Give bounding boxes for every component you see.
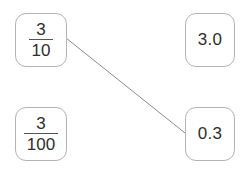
fraction-numerator: 3	[33, 115, 48, 133]
fraction-denominator: 10	[29, 39, 54, 59]
matching-activity-canvas: 3 10 3.0 3 100 0.3	[0, 0, 248, 183]
connector-line-three-tenths-to-zero-point-three[interactable]	[66, 38, 185, 133]
fraction-numerator: 3	[33, 21, 48, 39]
decimal-value: 3.0	[198, 30, 223, 50]
card-zero-point-three[interactable]: 0.3	[185, 107, 235, 161]
card-three-point-zero[interactable]: 3.0	[185, 13, 235, 67]
card-three-hundredths[interactable]: 3 100	[15, 107, 67, 161]
fraction-three-tenths: 3 10	[29, 21, 54, 59]
fraction-denominator: 100	[24, 133, 58, 153]
decimal-value: 0.3	[198, 124, 223, 144]
fraction-three-hundredths: 3 100	[24, 115, 58, 153]
card-three-tenths[interactable]: 3 10	[15, 13, 67, 67]
